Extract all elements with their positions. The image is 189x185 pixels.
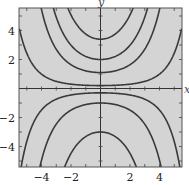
y-tick-label: −2 — [0, 112, 15, 125]
y-tick-label: −4 — [0, 141, 15, 154]
x-tick-label: −2 — [63, 171, 79, 184]
x-tick-label: −4 — [33, 171, 49, 184]
x-tick-label: 2 — [127, 171, 134, 184]
y-axis-label: y — [97, 0, 105, 9]
x-tick-label: 4 — [156, 171, 163, 184]
x-axis-label: x — [184, 83, 189, 96]
y-tick-label: 2 — [8, 54, 15, 67]
slope-field-plot: −4−224−4−224 x y — [0, 0, 189, 185]
y-tick-label: 4 — [8, 25, 15, 38]
